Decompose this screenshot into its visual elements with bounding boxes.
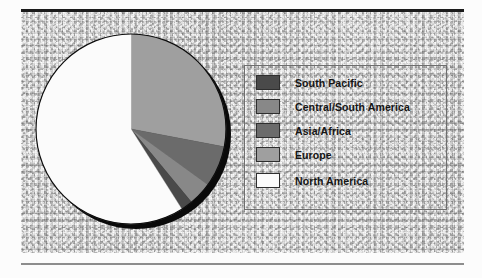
legend-item-asia-africa[interactable]: Asia/Africa — [256, 123, 351, 138]
legend-swatch-central-south-america — [256, 99, 280, 114]
legend-swatch-south-pacific — [256, 75, 280, 90]
legend-item-north-america[interactable]: North America — [256, 173, 368, 188]
legend-box: South Pacific Central/South America Asia… — [244, 65, 447, 210]
legend-swatch-europe — [256, 147, 280, 162]
legend-item-central-south-america[interactable]: Central/South America — [256, 99, 410, 114]
legend-label-europe: Europe — [295, 149, 332, 161]
legend-item-south-pacific[interactable]: South Pacific — [256, 75, 363, 90]
legend-label-south-pacific: South Pacific — [295, 77, 363, 89]
legend-label-central-south-america: Central/South America — [295, 101, 410, 113]
pie-slices — [36, 34, 226, 224]
pie-slice[interactable] — [131, 34, 226, 147]
legend-item-europe[interactable]: Europe — [256, 147, 332, 162]
legend-swatch-asia-africa — [256, 123, 280, 138]
legend-label-asia-africa: Asia/Africa — [295, 125, 351, 137]
legend-label-north-america: North America — [295, 175, 368, 187]
bottom-divider-rule — [21, 263, 464, 265]
legend-swatch-north-america — [256, 173, 280, 188]
pie-chart-figure: South Pacific Central/South America Asia… — [0, 0, 482, 278]
